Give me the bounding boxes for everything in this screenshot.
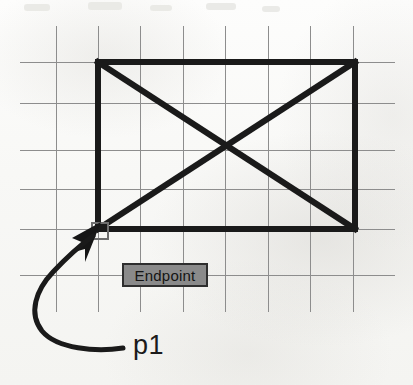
leader-line-layer: [0, 0, 413, 385]
endpoint-tooltip: Endpoint: [122, 263, 208, 287]
endpoint-tooltip-label: Endpoint: [135, 267, 196, 284]
cad-figure-canvas: Endpoint p1: [0, 0, 413, 385]
point-label-p1: p1: [133, 330, 164, 361]
curved-leader-line: [35, 236, 123, 350]
